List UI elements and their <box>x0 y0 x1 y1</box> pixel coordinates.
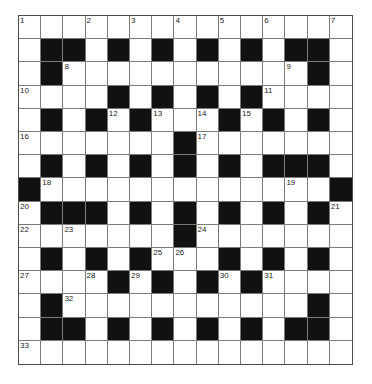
answer-cell[interactable] <box>174 109 196 132</box>
answer-cell[interactable] <box>108 248 130 271</box>
answer-cell[interactable] <box>285 86 307 109</box>
answer-cell[interactable]: 6 <box>263 16 285 39</box>
answer-cell[interactable] <box>174 62 196 85</box>
answer-cell[interactable] <box>241 178 263 201</box>
answer-cell[interactable] <box>241 202 263 225</box>
answer-cell[interactable]: 7 <box>330 16 352 39</box>
answer-cell[interactable] <box>86 225 108 248</box>
answer-cell[interactable] <box>86 178 108 201</box>
answer-cell[interactable] <box>219 178 241 201</box>
answer-cell[interactable] <box>219 318 241 341</box>
answer-cell[interactable] <box>197 16 219 39</box>
answer-cell[interactable] <box>41 271 63 294</box>
answer-cell[interactable] <box>152 178 174 201</box>
answer-cell[interactable] <box>330 294 352 317</box>
answer-cell[interactable] <box>152 294 174 317</box>
answer-cell[interactable] <box>174 39 196 62</box>
answer-cell[interactable] <box>263 178 285 201</box>
answer-cell[interactable] <box>308 271 330 294</box>
answer-cell[interactable] <box>174 341 196 364</box>
answer-cell[interactable] <box>130 341 152 364</box>
answer-cell[interactable] <box>63 178 85 201</box>
answer-cell[interactable]: 9 <box>285 62 307 85</box>
answer-cell[interactable] <box>174 178 196 201</box>
answer-cell[interactable] <box>285 248 307 271</box>
answer-cell[interactable]: 23 <box>63 225 85 248</box>
answer-cell[interactable]: 19 <box>285 178 307 201</box>
answer-cell[interactable] <box>308 132 330 155</box>
answer-cell[interactable]: 18 <box>41 178 63 201</box>
answer-cell[interactable] <box>108 16 130 39</box>
answer-cell[interactable] <box>63 271 85 294</box>
answer-cell[interactable] <box>197 62 219 85</box>
answer-cell[interactable]: 12 <box>108 109 130 132</box>
answer-cell[interactable] <box>63 132 85 155</box>
answer-cell[interactable] <box>108 202 130 225</box>
answer-cell[interactable] <box>197 341 219 364</box>
answer-cell[interactable]: 14 <box>197 109 219 132</box>
answer-cell[interactable] <box>130 294 152 317</box>
answer-cell[interactable] <box>330 62 352 85</box>
answer-cell[interactable] <box>152 132 174 155</box>
answer-cell[interactable] <box>174 318 196 341</box>
answer-cell[interactable] <box>86 39 108 62</box>
answer-cell[interactable]: 29 <box>130 271 152 294</box>
answer-cell[interactable] <box>308 178 330 201</box>
answer-cell[interactable] <box>152 16 174 39</box>
answer-cell[interactable] <box>241 155 263 178</box>
answer-cell[interactable] <box>63 109 85 132</box>
answer-cell[interactable] <box>108 178 130 201</box>
answer-cell[interactable] <box>86 132 108 155</box>
answer-cell[interactable]: 21 <box>330 202 352 225</box>
answer-cell[interactable] <box>108 294 130 317</box>
answer-cell[interactable] <box>63 248 85 271</box>
answer-cell[interactable]: 1 <box>19 16 41 39</box>
answer-cell[interactable] <box>219 62 241 85</box>
answer-cell[interactable] <box>152 155 174 178</box>
answer-cell[interactable] <box>108 62 130 85</box>
answer-cell[interactable] <box>263 62 285 85</box>
answer-cell[interactable] <box>263 294 285 317</box>
answer-cell[interactable] <box>241 294 263 317</box>
answer-cell[interactable] <box>130 39 152 62</box>
answer-cell[interactable] <box>330 86 352 109</box>
answer-cell[interactable] <box>197 178 219 201</box>
answer-cell[interactable] <box>174 294 196 317</box>
answer-cell[interactable] <box>41 16 63 39</box>
answer-cell[interactable] <box>86 318 108 341</box>
answer-cell[interactable] <box>19 318 41 341</box>
answer-cell[interactable] <box>41 86 63 109</box>
answer-cell[interactable] <box>130 178 152 201</box>
answer-cell[interactable] <box>152 341 174 364</box>
answer-cell[interactable] <box>241 341 263 364</box>
answer-cell[interactable] <box>41 132 63 155</box>
answer-cell[interactable] <box>197 294 219 317</box>
answer-cell[interactable] <box>330 225 352 248</box>
answer-cell[interactable] <box>241 225 263 248</box>
answer-cell[interactable]: 13 <box>152 109 174 132</box>
answer-cell[interactable] <box>19 248 41 271</box>
answer-cell[interactable] <box>219 225 241 248</box>
answer-cell[interactable]: 28 <box>86 271 108 294</box>
answer-cell[interactable] <box>19 39 41 62</box>
answer-cell[interactable] <box>330 39 352 62</box>
answer-cell[interactable] <box>330 109 352 132</box>
answer-cell[interactable]: 4 <box>174 16 196 39</box>
answer-cell[interactable] <box>197 248 219 271</box>
answer-cell[interactable] <box>330 318 352 341</box>
answer-cell[interactable] <box>63 16 85 39</box>
answer-cell[interactable] <box>330 341 352 364</box>
answer-cell[interactable] <box>130 132 152 155</box>
answer-cell[interactable] <box>285 294 307 317</box>
answer-cell[interactable]: 20 <box>19 202 41 225</box>
answer-cell[interactable]: 32 <box>63 294 85 317</box>
answer-cell[interactable] <box>63 155 85 178</box>
answer-cell[interactable] <box>308 341 330 364</box>
answer-cell[interactable] <box>19 62 41 85</box>
answer-cell[interactable] <box>174 271 196 294</box>
answer-cell[interactable] <box>41 225 63 248</box>
answer-cell[interactable] <box>219 39 241 62</box>
answer-cell[interactable] <box>130 62 152 85</box>
answer-cell[interactable] <box>308 16 330 39</box>
answer-cell[interactable]: 16 <box>19 132 41 155</box>
